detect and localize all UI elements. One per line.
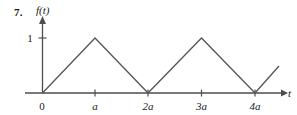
y-axis-arrowhead (39, 16, 46, 24)
x-tick-label-0: 0 (39, 100, 45, 112)
x-tick-label-4a: 4a (250, 100, 262, 112)
x-tick-label-a: a (92, 100, 98, 112)
triangular-wave-plot: f(t) t 1 0 a 2a 3a 4a (0, 0, 297, 115)
y-tick-label-1: 1 (27, 32, 33, 44)
y-axis-label: f(t) (36, 4, 50, 17)
x-axis-arrowhead (281, 90, 288, 97)
x-axis-label: t (288, 87, 292, 99)
waveform-path (43, 38, 280, 93)
x-tick-label-2a: 2a (143, 100, 155, 112)
figure-container: 7. f(t) t 1 0 a 2a 3a 4a (0, 0, 297, 115)
x-tick-label-3a: 3a (195, 100, 208, 112)
